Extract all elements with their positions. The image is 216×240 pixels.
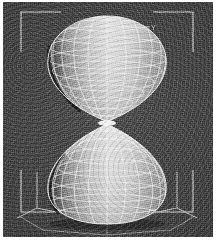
screenshot-root: Y: [0, 0, 216, 240]
y-axis-label: Y: [151, 24, 156, 31]
render-viewport: Y: [3, 2, 213, 237]
3d-scene[interactable]: [3, 2, 213, 237]
hourglass-top-lobe: [47, 16, 167, 121]
hourglass-bottom-lobe: [47, 125, 168, 226]
hourglass-waist: [98, 120, 116, 126]
scene-svg: [3, 2, 213, 237]
